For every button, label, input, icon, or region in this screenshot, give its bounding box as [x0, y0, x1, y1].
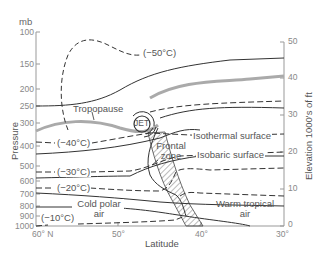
isotherm-700-right: [180, 192, 284, 196]
latitude-tick: 60° N: [32, 230, 53, 239]
label-warm-tropical-air: Warm tropical air: [210, 199, 280, 219]
tropopause-upper: [150, 76, 284, 98]
elevation-tick: 40: [288, 73, 297, 82]
elevation-axis-title: Elevation 1000's of ft: [304, 92, 314, 180]
label-jet: JET: [134, 119, 149, 128]
pressure-unit: mb: [19, 17, 32, 27]
pressure-axis-title: Pressure: [10, 122, 20, 160]
label-minus40: (−40°C): [56, 138, 91, 148]
pressure-tick: 700: [4, 190, 34, 199]
pressure-tick: 500: [4, 162, 34, 171]
pressure-tick: 150: [4, 60, 34, 69]
label-minus10: (−10°C): [40, 213, 75, 223]
isobar-upper: [36, 58, 284, 106]
pressure-tick: 600: [4, 177, 34, 186]
label-minus20: (−20°C): [56, 183, 91, 193]
pressure-tick: 100: [4, 28, 34, 37]
label-isobaric-surface: Isobaric surface: [196, 150, 265, 160]
isobar-upper-right: [160, 107, 284, 118]
elevation-tick: 10: [288, 184, 297, 193]
pressure-tick: 200: [4, 85, 34, 94]
pressure-tick: 800: [4, 202, 34, 211]
pressure-tick: 1000: [4, 222, 34, 231]
elevation-tick: 30: [288, 110, 297, 119]
elevation-tick: 50: [288, 37, 297, 46]
label-minus30: (−30°C): [56, 167, 91, 177]
label-isothermal-surface: Isothermal surface: [192, 131, 272, 141]
pressure-tick: 250: [4, 102, 34, 111]
label-cold-polar-air: Cold polar air: [74, 199, 124, 219]
latitude-tick: 30°: [276, 230, 289, 239]
label-tropopause: Tropopause: [73, 104, 123, 114]
label-minus50: (−50°C): [142, 48, 177, 58]
latitude-tick: 50°: [112, 230, 125, 239]
pressure-tick: 900: [4, 212, 34, 221]
latitude-axis-title: Latitude: [145, 239, 179, 249]
elevation-tick: 0: [288, 220, 293, 229]
label-frontal-zone: Frontal zone: [153, 141, 189, 161]
latitude-tick: 40°: [195, 230, 208, 239]
elevation-tick: 20: [288, 147, 297, 156]
isotherm-upper-right: [150, 101, 284, 112]
